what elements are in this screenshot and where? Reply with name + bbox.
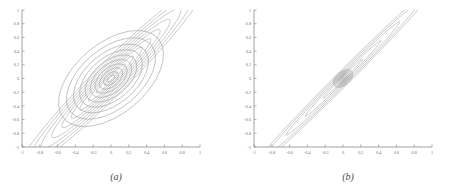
contour-line (83, 52, 138, 104)
y-tick-label: -0.2 (12, 90, 19, 95)
contour-line (52, 22, 171, 135)
contour-line (283, 19, 402, 138)
contour-line (45, 12, 177, 144)
y-tick-label: -0.4 (244, 104, 252, 109)
contour-line (61, 31, 161, 126)
x-tick-label: 0.4 (144, 150, 150, 155)
y-tick-label: 0.2 (246, 62, 251, 67)
x-tick-label: -1 (20, 150, 24, 155)
y-tick-label: 0.6 (246, 35, 251, 40)
figure-contour-plots: -1-0.8-0.6-0.4-0.200.20.40.60.81-1-0.8-0… (0, 0, 464, 186)
contour-line (69, 39, 153, 119)
y-tick-label: 0 (249, 76, 251, 81)
x-tick-label: 1 (199, 150, 201, 155)
contour-line (303, 39, 382, 118)
x-tick-label: 1 (431, 150, 433, 155)
x-tick-label: -0.2 (322, 150, 329, 155)
x-tick-label: -0.8 (268, 150, 275, 155)
x-tick-label: 0.8 (412, 150, 417, 155)
y-tick-label: 0.2 (14, 62, 19, 67)
contour-plot-a: -1-0.8-0.6-0.4-0.200.20.40.60.81-1-0.8-0… (0, 0, 232, 186)
x-tick-label: -0.4 (304, 150, 312, 155)
y-tick-label: 0.4 (246, 49, 252, 54)
panel-b: -1-0.8-0.6-0.4-0.200.20.40.60.81-1-0.8-0… (232, 0, 464, 186)
y-tick-label: 0.8 (246, 21, 251, 26)
contour-line (95, 64, 126, 94)
x-tick-label: -1 (252, 150, 256, 155)
y-tick-label: 0.4 (14, 49, 20, 54)
x-tick-label: 0 (342, 150, 344, 155)
x-tick-label: -0.6 (54, 150, 61, 155)
x-tick-label: 0.8 (180, 150, 185, 155)
contour-line (101, 69, 121, 88)
x-tick-label: 0.6 (394, 150, 399, 155)
y-tick-label: -0.6 (12, 117, 19, 122)
y-tick-label: 0.6 (14, 35, 19, 40)
contour-line (33, 0, 189, 156)
y-tick-label: -1 (248, 145, 252, 150)
y-tick-label: -0.4 (12, 104, 20, 109)
x-tick-label: -0.2 (90, 150, 97, 155)
y-tick-label: 0.8 (14, 21, 19, 26)
x-tick-label: 0.6 (162, 150, 167, 155)
y-tick-label: 0 (17, 76, 19, 81)
x-tick-label: 0.2 (126, 150, 131, 155)
y-tick-label: -0.8 (244, 131, 251, 136)
panel-a-caption: (a) (0, 171, 232, 182)
contour-line (322, 58, 363, 99)
contour-line (341, 76, 345, 80)
contour-plot-b: -1-0.8-0.6-0.4-0.200.20.40.60.81-1-0.8-0… (232, 0, 464, 186)
panel-b-caption: (b) (232, 171, 464, 182)
contour-line (76, 44, 146, 114)
x-tick-label: 0.2 (358, 150, 363, 155)
y-tick-label: -1 (16, 145, 20, 150)
x-tick-label: -0.8 (36, 150, 43, 155)
x-tick-label: 0 (110, 150, 112, 155)
contour-lines (7, 0, 215, 183)
contour-line (330, 66, 356, 91)
y-tick-label: 1 (17, 8, 19, 13)
y-tick-label: -0.6 (244, 117, 251, 122)
x-tick-label: 0.4 (376, 150, 382, 155)
y-tick-label: 1 (249, 8, 251, 13)
y-tick-label: -0.2 (244, 90, 251, 95)
panel-a: -1-0.8-0.6-0.4-0.200.20.40.60.81-1-0.8-0… (0, 0, 232, 186)
x-tick-label: -0.4 (72, 150, 80, 155)
y-tick-label: -0.8 (12, 131, 19, 136)
x-tick-label: -0.6 (286, 150, 293, 155)
